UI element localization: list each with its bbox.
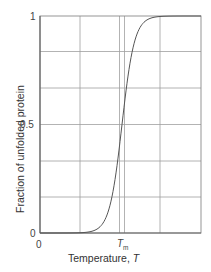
y-tick-1: 1 [30, 11, 36, 22]
y-tick-0: 0 [30, 228, 36, 239]
y-axis-label: Fraction of unfolded protein [14, 85, 26, 213]
grid [40, 16, 201, 233]
x-tick-tm: Tm [117, 238, 129, 251]
chart: 1 0.5 0 0 Tm Temperature, T Fraction of … [0, 0, 211, 272]
x-tick-0: 0 [36, 239, 42, 250]
x-axis-label: Temperature, T [68, 252, 141, 264]
